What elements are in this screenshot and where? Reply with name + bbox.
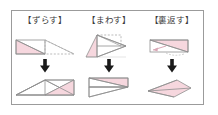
column-label-rotate: 【まわす】 [78, 15, 140, 25]
figure-rotate-bottom [78, 76, 140, 100]
column-rotate: 【まわす】 [78, 11, 140, 104]
figure-slide-top [12, 37, 78, 57]
arrow-rotate [78, 59, 140, 73]
figure-rotate-top [78, 33, 140, 59]
figure-root: 【ずらす】 [0, 0, 218, 115]
diagram-frame: 【ずらす】 [11, 10, 204, 105]
figure-slide-bottom [12, 76, 78, 98]
arrow-flip [140, 59, 203, 73]
column-flip: 【裏返す】 [140, 11, 203, 104]
column-label-flip: 【裏返す】 [140, 15, 203, 25]
figure-flip-top [140, 37, 203, 59]
column-slide: 【ずらす】 [12, 11, 78, 104]
figure-flip-bottom [140, 78, 203, 100]
down-arrow-icon [39, 59, 51, 73]
down-arrow-icon [103, 59, 115, 73]
arrow-slide [12, 59, 78, 73]
down-arrow-icon [166, 59, 178, 73]
column-label-slide: 【ずらす】 [12, 15, 78, 25]
